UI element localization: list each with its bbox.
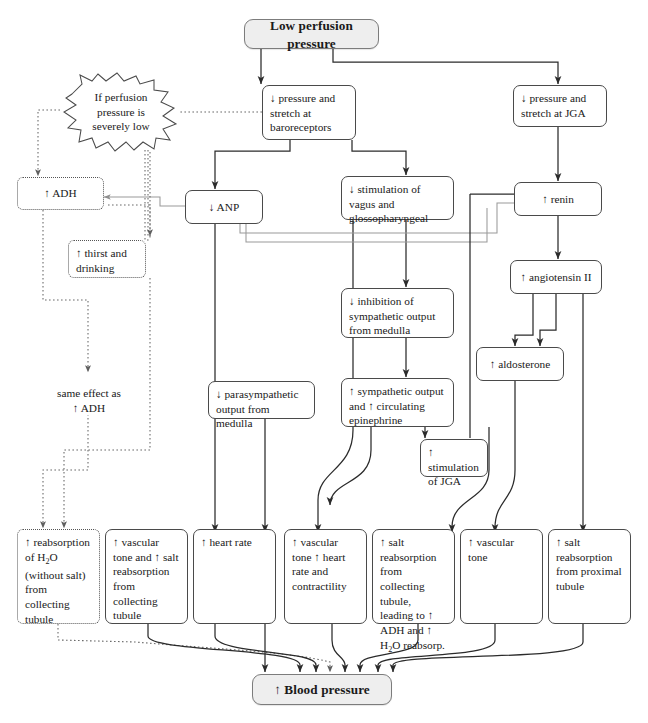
node-label: ↓ pressure and stretch at JGA xyxy=(521,92,586,119)
free-text-label: same effect as ↑ ADH xyxy=(57,387,121,414)
node-jga-stimulation[interactable]: ↑ stimulation of JGA xyxy=(420,439,488,477)
node-label: ↑ stimulation of JGA xyxy=(428,446,479,487)
outcome-label: ↑ vascular tone and ↑ salt reabsorption … xyxy=(113,536,179,621)
outcome-label: ↑ salt reabsorption from collecting tubu… xyxy=(380,536,445,651)
node-label: ↑ angiotensin II xyxy=(521,270,592,285)
outcome-box-4[interactable]: ↑ salt reabsorption from collecting tubu… xyxy=(372,529,455,624)
node-vagus-stimulation[interactable]: ↓ stimulation of vagus and glossopharyng… xyxy=(341,176,454,220)
node-label: ↑ ADH xyxy=(44,186,76,201)
outcome-label: ↑ heart rate xyxy=(201,536,252,548)
node-label: ↑ Blood pressure xyxy=(274,681,370,698)
node-adh[interactable]: ↑ ADH xyxy=(17,177,104,210)
outcome-box-1[interactable]: ↑ vascular tone and ↑ salt reabsorption … xyxy=(105,529,188,624)
node-label: ↑ thirst and drinking xyxy=(76,247,127,274)
node-renin[interactable]: ↑ renin xyxy=(514,182,602,216)
node-label: ↓ parasympathetic output from medulla xyxy=(216,388,299,429)
flowchart-canvas: Low perfusion pressure If perfusion pres… xyxy=(0,0,648,723)
outcome-label: ↑ reabsorption of H2O (without salt) fro… xyxy=(25,536,90,625)
outcome-label: ↑ vascular tone xyxy=(468,536,514,563)
node-low-perfusion-pressure[interactable]: Low perfusion pressure xyxy=(244,19,379,49)
outcome-box-6[interactable]: ↑ salt reabsorption from proximal tubule xyxy=(548,529,631,624)
callout-label: If perfusion pressure is severely low xyxy=(62,72,180,152)
node-jga-pressure[interactable]: ↓ pressure and stretch at JGA xyxy=(513,85,607,127)
outcome-box-2[interactable]: ↑ heart rate xyxy=(193,529,276,624)
node-thirst-and-drinking[interactable]: ↑ thirst and drinking xyxy=(68,240,146,278)
text-same-effect-as-adh: same effect as ↑ ADH xyxy=(57,386,121,415)
outcome-label: ↑ salt reabsorption from proximal tubule xyxy=(556,536,622,592)
node-blood-pressure[interactable]: ↑ Blood pressure xyxy=(252,674,392,705)
node-baroreceptors[interactable]: ↓ pressure and stretch at baroreceptors xyxy=(262,85,356,140)
node-inhibition-sympathetic[interactable]: ↓ inhibition of sympathetic output from … xyxy=(341,288,454,338)
callout-severely-low[interactable]: If perfusion pressure is severely low xyxy=(62,72,180,152)
node-aldosterone[interactable]: ↑ aldosterone xyxy=(476,347,564,381)
node-label: ↓ ANP xyxy=(209,200,239,215)
node-parasympathetic-output[interactable]: ↓ parasympathetic output from medulla xyxy=(208,381,315,419)
node-label: ↓ pressure and stretch at baroreceptors xyxy=(270,92,335,133)
node-angiotensin-ii[interactable]: ↑ angiotensin II xyxy=(510,260,602,294)
outcome-box-3[interactable]: ↑ vascular tone ↑ heart rate and contrac… xyxy=(284,529,367,624)
outcome-label: ↑ vascular tone ↑ heart rate and contrac… xyxy=(292,536,347,592)
outcome-box-0[interactable]: ↑ reabsorption of H2O (without salt) fro… xyxy=(17,529,100,624)
node-label: ↑ renin xyxy=(542,192,574,207)
node-label: ↓ inhibition of sympathetic output from … xyxy=(349,295,435,336)
node-label: ↑ aldosterone xyxy=(490,357,551,372)
node-sympathetic-output[interactable]: ↑ sympathetic output and ↑ circulating e… xyxy=(341,378,454,427)
node-label: Low perfusion pressure xyxy=(252,17,371,51)
outcome-box-5[interactable]: ↑ vascular tone xyxy=(460,529,543,624)
node-anp[interactable]: ↓ ANP xyxy=(185,190,263,224)
node-label: ↑ sympathetic output and ↑ circulating e… xyxy=(349,385,444,426)
node-label: ↓ stimulation of vagus and glossopharyng… xyxy=(349,183,428,224)
